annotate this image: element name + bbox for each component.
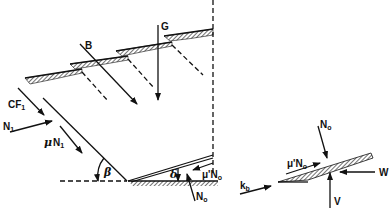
V-label: V [334, 196, 341, 207]
muN1-label: μN1 [44, 136, 64, 149]
N0-right-label: No [320, 119, 332, 131]
G-label: G [161, 21, 169, 32]
N0-right-arrow [318, 126, 327, 158]
delta-label: δ [169, 168, 177, 181]
W-label: W [379, 167, 389, 178]
force-diagram: β δ G B CF1 N1 μN1 μ'No No kb μ'No No W … [0, 0, 390, 210]
N1-force-arrow [10, 121, 52, 132]
N0-left-label: No [196, 191, 208, 203]
kb-label: kb [240, 180, 250, 192]
base-ground-hatch [128, 181, 218, 186]
N0-left-arrow [187, 174, 195, 201]
dashed-slip-lines [82, 45, 203, 101]
B-label: B [85, 40, 92, 51]
N1-label: N1 [3, 121, 14, 133]
muPrimeN0-right-label: μ'No [287, 158, 307, 170]
CF1-label: CF1 [8, 99, 25, 111]
beta-label: β [103, 166, 112, 179]
muPrimeN0-left-label: μ'No [202, 169, 222, 181]
